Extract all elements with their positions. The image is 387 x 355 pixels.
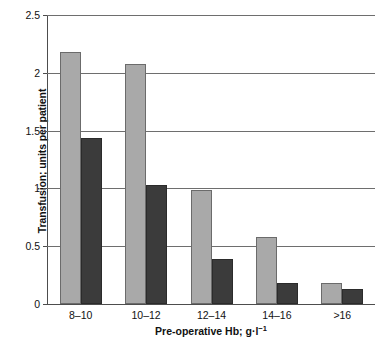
x-axis-line	[47, 304, 375, 305]
y-tick-label: 0	[34, 299, 40, 310]
bar-group	[125, 15, 167, 304]
bar-series-container	[48, 15, 375, 304]
y-tick-mark	[43, 73, 47, 74]
bar[interactable]	[212, 259, 233, 304]
y-tick-label: 2	[34, 68, 40, 79]
x-tick-label: >16	[333, 309, 351, 321]
y-tick-mark	[43, 15, 47, 16]
x-axis-title: Pre-operative Hb; g·l−1	[47, 325, 375, 337]
bar-group	[191, 15, 233, 304]
x-tick-label: 12–14	[197, 309, 226, 321]
bar[interactable]	[277, 283, 298, 304]
bar[interactable]	[60, 52, 81, 304]
x-tick-label: 14–16	[262, 309, 291, 321]
bar[interactable]	[191, 190, 212, 304]
y-tick-mark	[43, 188, 47, 189]
bar[interactable]	[321, 283, 342, 304]
x-axis-title-exponent: −1	[258, 324, 267, 333]
bar[interactable]	[81, 138, 102, 304]
bar-group	[60, 15, 102, 304]
y-tick-mark	[43, 304, 47, 305]
y-tick-label: 1.5	[25, 125, 40, 136]
y-tick-mark	[43, 131, 47, 132]
bar[interactable]	[342, 289, 363, 304]
y-tick-label: 1	[34, 183, 40, 194]
bar[interactable]	[256, 237, 277, 304]
x-tick-label: 8–10	[69, 309, 92, 321]
bar-group	[256, 15, 298, 304]
y-tick-label: 2.5	[25, 10, 40, 21]
x-axis-title-text: Pre-operative Hb; g·l	[155, 325, 258, 337]
y-tick-label: 0.5	[25, 241, 40, 252]
bar[interactable]	[125, 64, 146, 304]
bar-group	[321, 15, 363, 304]
plot-area: 00.511.522.5 8–1010–1212–1414–16>16	[47, 15, 375, 305]
bar-chart-figure: Transfusion; units per patient 00.511.52…	[0, 0, 387, 355]
bar[interactable]	[146, 185, 167, 304]
x-tick-label: 10–12	[131, 309, 160, 321]
y-tick-mark	[43, 246, 47, 247]
